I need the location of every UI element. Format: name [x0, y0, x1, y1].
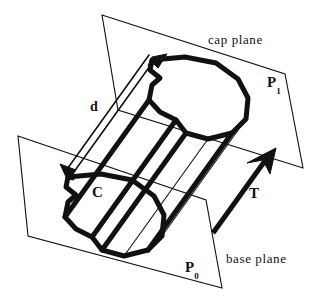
p1-letter: P: [267, 74, 276, 90]
base-plane-label: base plane: [226, 252, 287, 265]
generalized-cylinder-figure: cap plane base plane P1 P0 d C T: [0, 0, 317, 302]
translation-vector-T: [213, 148, 276, 233]
p0-letter: P: [185, 259, 194, 275]
cross-section-label: C: [92, 185, 103, 200]
cap-plane-label: cap plane: [208, 33, 263, 46]
distance-label: d: [90, 100, 98, 114]
base-plane-symbol: P0: [185, 260, 199, 278]
cap-plane-symbol: P1: [267, 75, 281, 93]
p0-subscript: 0: [194, 271, 199, 281]
ruling-thin-1: [124, 139, 208, 256]
cap-cross-section: [149, 57, 248, 139]
p1-subscript: 1: [276, 86, 281, 96]
translation-label: T: [249, 186, 259, 201]
